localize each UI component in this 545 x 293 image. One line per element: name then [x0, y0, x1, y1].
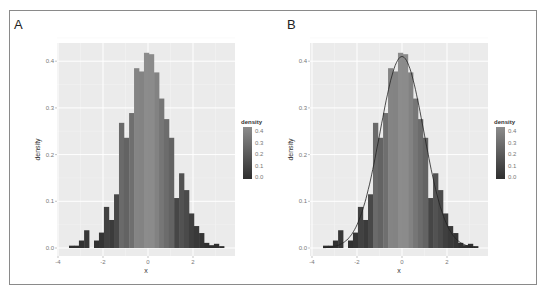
x-axis-title: x [144, 267, 148, 274]
histogram-bar [104, 207, 109, 248]
histogram-bar [109, 220, 114, 248]
histogram-bar [114, 194, 119, 248]
histogram-bar [149, 54, 154, 248]
panel-a: -4-2020.00.10.20.30.4xdensitydensity0.40… [34, 38, 264, 274]
chart-canvas: -4-2020.00.10.20.30.4xdensitydensity0.40… [0, 0, 545, 293]
histogram-bar [443, 213, 448, 248]
histogram-bar [413, 99, 418, 248]
legend-colorbar [243, 127, 252, 179]
histogram-bar [358, 207, 363, 248]
density-legend: density0.40.30.20.10.0 [241, 119, 264, 180]
histogram-bar [189, 213, 194, 248]
histogram-bar [174, 198, 179, 248]
histogram-bar [94, 241, 99, 248]
histogram-bar [74, 246, 79, 248]
histogram-bar [423, 138, 428, 248]
legend-label: 0.4 [508, 128, 517, 134]
y-tick-label: 0.2 [46, 152, 55, 158]
histogram-bar [348, 241, 353, 248]
histogram-bar [368, 194, 373, 248]
histogram-bar [204, 243, 209, 248]
legend-label: 0.3 [508, 140, 517, 146]
histogram-bar [428, 198, 433, 248]
x-tick-label: -4 [55, 259, 61, 265]
x-tick-label: -4 [309, 259, 315, 265]
histogram-bar [398, 53, 403, 248]
histogram-bar [388, 68, 393, 248]
y-tick-label: 0.3 [299, 105, 308, 111]
histogram-bar [154, 72, 159, 248]
histogram-bar [373, 123, 378, 248]
legend-label: 0.3 [255, 140, 264, 146]
y-tick-label: 0.0 [46, 245, 55, 251]
histogram-bar [353, 233, 358, 248]
x-axis-title: x [397, 267, 401, 274]
histogram-bar [448, 226, 453, 248]
histogram-bar [393, 71, 398, 248]
legend-label: 0.2 [255, 151, 264, 157]
x-tick-label: 2 [191, 259, 195, 265]
histogram-bar [99, 233, 104, 248]
histogram-bar [214, 244, 219, 248]
y-tick-label: 0.0 [299, 245, 308, 251]
histogram-bar [129, 113, 134, 248]
x-tick-label: 0 [146, 259, 150, 265]
legend-label: 0.4 [255, 128, 264, 134]
histogram-bar [383, 113, 388, 248]
density-legend: density0.40.30.20.10.0 [494, 119, 517, 180]
histogram-bar [159, 99, 164, 248]
histogram-bar [378, 138, 383, 248]
histogram-bar [79, 241, 84, 248]
y-tick-label: 0.3 [46, 105, 55, 111]
legend-label: 0.1 [508, 163, 517, 169]
histogram-bar [164, 119, 169, 248]
histogram-bar [433, 173, 438, 248]
panel-b: -4-2020.00.10.20.30.4xdensitydensity0.40… [287, 38, 517, 274]
y-tick-label: 0.2 [299, 152, 308, 158]
y-tick-label: 0.1 [299, 198, 308, 204]
histogram-bar [134, 68, 139, 248]
histogram-bar [184, 190, 189, 248]
histogram-bar [418, 119, 423, 248]
histogram-bar [69, 246, 74, 248]
histogram-bar [179, 173, 184, 248]
legend-colorbar [496, 127, 505, 179]
y-tick-label: 0.1 [46, 198, 55, 204]
legend-label: 0.2 [508, 151, 517, 157]
histogram-bar [84, 230, 89, 248]
histogram-bar [194, 226, 199, 248]
x-tick-label: 0 [400, 259, 404, 265]
legend-title: density [494, 119, 516, 125]
histogram-bar [408, 72, 413, 248]
y-tick-label: 0.4 [46, 58, 55, 64]
histogram-bar [169, 138, 174, 248]
legend-title: density [241, 119, 263, 125]
legend-label: 0.1 [255, 163, 264, 169]
x-tick-label: 2 [445, 259, 449, 265]
histogram-bar [403, 54, 408, 248]
x-tick-label: -2 [100, 259, 106, 265]
histogram-bar [199, 233, 204, 248]
legend-label: 0.0 [508, 174, 517, 180]
histogram-bar [139, 71, 144, 248]
histogram-bar [119, 123, 124, 248]
legend-label: 0.0 [255, 174, 264, 180]
histogram-bar [363, 220, 368, 248]
histogram-bar [144, 53, 149, 248]
histogram-bar [209, 245, 214, 248]
y-axis-title: density [287, 138, 295, 161]
histogram-bar [438, 190, 443, 248]
y-axis-title: density [34, 138, 42, 161]
histogram-bar [124, 138, 129, 248]
x-tick-label: -2 [354, 259, 360, 265]
histogram-bar [219, 246, 224, 248]
y-tick-label: 0.4 [299, 58, 308, 64]
